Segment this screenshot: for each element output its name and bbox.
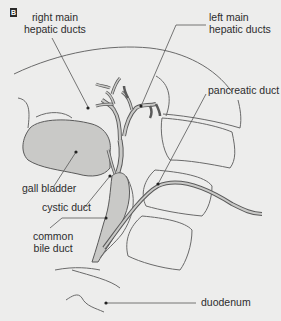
vertebra-1	[161, 118, 235, 168]
biliary-anatomy-figure: B right main hepatic ducts left main hep…	[0, 0, 281, 321]
label-left-hepatic-ducts: left main hepatic ducts	[209, 11, 271, 35]
leader-pancreatic	[158, 94, 206, 184]
anchor-dot-duodenum	[104, 301, 107, 304]
anchor-dot-common-bile	[104, 216, 107, 219]
vertebra-3	[127, 216, 192, 270]
left-hepatic-branch-d	[156, 104, 160, 116]
anchor-dot-right-hepatic	[86, 106, 89, 109]
duodenum-contour-lower	[72, 270, 120, 288]
gall-bladder-shape	[23, 120, 110, 176]
left-hepatic-branch-c	[150, 106, 152, 118]
anchor-dot-cystic	[108, 174, 111, 177]
panel-letter: B	[10, 8, 17, 17]
leader-left-hepatic	[142, 25, 206, 104]
body-contour-upper	[36, 113, 72, 118]
vertebra-2	[143, 170, 212, 216]
label-gall-bladder: gall bladder	[22, 182, 76, 194]
liver-outline	[14, 47, 232, 92]
label-cystic-duct: cystic duct	[42, 201, 91, 213]
label-common-bile-duct: common bile duct	[33, 230, 73, 254]
leader-common-bile	[50, 218, 104, 228]
anchor-dot-gall-bladder	[74, 150, 77, 153]
duodenum-contour-small	[66, 295, 104, 312]
label-duodenum: duodenum	[201, 296, 251, 308]
anatomy-illustration	[0, 0, 281, 321]
body-contour-left	[18, 98, 29, 128]
label-right-hepatic-ducts: right main hepatic ducts	[24, 11, 86, 35]
label-pancreatic-duct: pancreatic duct	[208, 84, 279, 96]
common-bile-duct	[92, 173, 130, 262]
leader-right-hepatic	[52, 38, 88, 107]
anchor-dot-left-hepatic	[139, 104, 142, 107]
duodenum-contour-upper	[55, 268, 100, 270]
anchor-dot-pancreatic	[156, 182, 159, 185]
